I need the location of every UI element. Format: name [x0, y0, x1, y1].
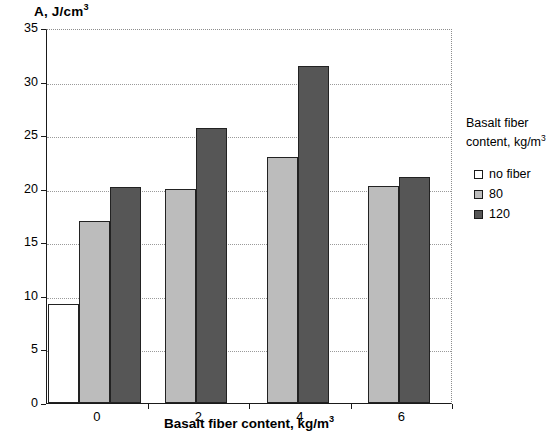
bar: [267, 157, 298, 403]
y-axis-tick-label: 25: [24, 128, 38, 142]
bar: [79, 221, 110, 403]
plot-area: [46, 29, 452, 404]
x-axis-title-text: Basalt fiber content, kg/m: [164, 416, 329, 431]
legend-title-line1: Basalt fiber: [466, 116, 529, 130]
gridline: [47, 84, 451, 85]
x-axis-tick-mark: [148, 404, 149, 409]
plot-inner: [47, 30, 451, 403]
x-axis-title-superscript: 3: [329, 414, 334, 424]
y-axis-tick-mark: [41, 404, 46, 405]
legend-swatch: [474, 210, 483, 219]
bar: [196, 128, 227, 403]
legend-title-line2: content, kg/m: [466, 135, 541, 149]
legend-title-superscript: 3: [541, 133, 546, 143]
legend-item[interactable]: no fiber: [474, 164, 552, 184]
bar: [110, 187, 141, 403]
x-axis-tick-mark: [351, 404, 352, 409]
bar: [48, 304, 79, 403]
x-axis-title: Basalt fiber content, kg/m3: [46, 414, 452, 431]
legend-items: no fiber80120: [474, 164, 552, 224]
y-axis-title: A, J/cm3: [34, 2, 89, 19]
y-axis-tick-label: 30: [24, 75, 38, 89]
legend-item-label: 80: [489, 187, 503, 201]
legend-swatch: [474, 190, 483, 199]
legend-item-label: 120: [489, 207, 510, 221]
legend-swatch: [474, 170, 483, 179]
y-axis-tick-label: 35: [24, 21, 38, 35]
bar-chart-figure: A, J/cm3 05101520253035 0246 Basalt fibe…: [0, 0, 554, 435]
bar: [165, 189, 196, 403]
y-axis-tick-label: 0: [31, 396, 38, 410]
y-axis-tick-label: 5: [31, 342, 38, 356]
bar: [368, 186, 399, 404]
x-axis-tick-mark: [249, 404, 250, 409]
y-axis-title-text: A, J/cm: [34, 4, 83, 19]
y-axis-tick-label: 20: [24, 182, 38, 196]
legend-item[interactable]: 80: [474, 184, 552, 204]
y-axis-tick-label: 10: [24, 289, 38, 303]
gridline: [47, 137, 451, 138]
legend-title: Basalt fiber content, kg/m3: [466, 116, 552, 150]
legend: Basalt fiber content, kg/m3 no fiber8012…: [466, 116, 552, 224]
bar: [298, 66, 329, 404]
y-axis-title-superscript: 3: [83, 2, 88, 12]
bar: [399, 177, 430, 403]
legend-item[interactable]: 120: [474, 204, 552, 224]
legend-item-label: no fiber: [489, 167, 531, 181]
y-axis-tick-label: 15: [24, 235, 38, 249]
x-axis-tick-mark: [452, 404, 453, 409]
